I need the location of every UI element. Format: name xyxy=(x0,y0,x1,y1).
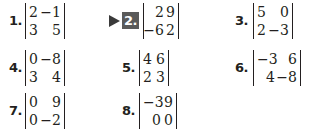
matrix-cell: −2 xyxy=(40,111,61,129)
matrix-cell: 4 xyxy=(143,50,152,68)
problem-number: 7. xyxy=(9,103,22,118)
pointer-arrow-icon xyxy=(109,15,120,27)
problem-number: 1. xyxy=(9,13,22,28)
problem-6: 6. −3 6 4 −8 xyxy=(200,50,313,88)
matrix-cell: 3 xyxy=(29,21,38,39)
matrix-row: 2 3 xyxy=(140,68,168,86)
matrix-cell: −3 xyxy=(268,21,289,39)
matrix-cell: 5 xyxy=(257,3,266,21)
matrix-cell: 9 xyxy=(166,3,175,21)
determinant: 2 −1 3 5 xyxy=(25,3,65,39)
matrix-cell: 0 xyxy=(152,111,161,129)
determinant: −3 6 4 −8 xyxy=(253,50,301,86)
matrix-row: −3 9 xyxy=(140,93,176,111)
matrix-cell: 4 xyxy=(266,68,275,86)
matrix-row: 4 6 xyxy=(140,50,168,68)
problem-2: 2. 2 9 −6 2 xyxy=(100,3,200,41)
matrix-cell: 9 xyxy=(52,93,61,111)
matrix-row: 4 −8 xyxy=(254,68,300,86)
matrix-cell: −8 xyxy=(276,68,297,86)
matrix-cell: 3 xyxy=(29,68,38,86)
determinant: −3 9 0 0 xyxy=(139,93,177,129)
matrix-row: −6 2 xyxy=(144,21,178,39)
matrix-cell: 2 xyxy=(257,21,266,39)
determinant: 5 0 2 −3 xyxy=(253,3,293,39)
matrix-row: −3 6 xyxy=(254,50,300,68)
determinant: 0 9 0 −2 xyxy=(25,93,65,129)
matrix-cell: −6 xyxy=(143,21,164,39)
matrix-row: 2 −3 xyxy=(254,21,292,39)
problem-number: 4. xyxy=(9,60,22,75)
matrix-cell: 2 xyxy=(166,21,175,39)
matrix-row: 5 0 xyxy=(254,3,292,21)
matrix-cell: 6 xyxy=(156,50,165,68)
matrix-row: 0 0 xyxy=(140,111,176,129)
matrix-cell: 2 xyxy=(143,68,152,86)
matrix-cell: 0 xyxy=(29,50,38,68)
matrix-row: 0 −8 xyxy=(26,50,64,68)
determinant: 4 6 2 3 xyxy=(139,50,169,86)
matrix-cell: −8 xyxy=(40,50,61,68)
problem-number: 5. xyxy=(122,60,135,75)
matrix-cell: 0 xyxy=(29,111,38,129)
problem-8: 8. −3 9 0 0 xyxy=(100,93,200,131)
problem-number-highlighted: 2. xyxy=(122,12,139,29)
matrix-cell: 0 xyxy=(280,3,289,21)
problem-number: 6. xyxy=(235,60,248,75)
problem-7: 7. 0 9 0 −2 xyxy=(0,93,100,131)
matrix-cell: 0 xyxy=(29,93,38,111)
problem-3: 3. 5 0 2 −3 xyxy=(200,3,313,41)
matrix-cell: −1 xyxy=(40,3,61,21)
matrix-row: 2 9 xyxy=(144,3,178,21)
matrix-cell: 2 xyxy=(29,3,38,21)
matrix-row: 2 −1 xyxy=(26,3,64,21)
determinant: 2 9 −6 2 xyxy=(143,3,179,39)
problem-1: 1. 2 −1 3 5 xyxy=(0,3,100,41)
matrix-cell: 3 xyxy=(156,68,165,86)
matrix-row: 3 4 xyxy=(26,68,64,86)
matrix-row: 3 5 xyxy=(26,21,64,39)
matrix-cell: −3 xyxy=(257,50,278,68)
problem-number: 8. xyxy=(122,103,135,118)
matrix-cell: 9 xyxy=(164,93,173,111)
matrix-cell: 6 xyxy=(288,50,297,68)
matrix-row: 0 −2 xyxy=(26,111,64,129)
problem-5: 5. 4 6 2 3 xyxy=(100,50,200,88)
determinant: 0 −8 3 4 xyxy=(25,50,65,86)
matrix-cell: 2 xyxy=(155,3,164,21)
matrix-cell: 5 xyxy=(52,21,61,39)
matrix-row: 0 9 xyxy=(26,93,64,111)
matrix-cell: 4 xyxy=(52,68,61,86)
matrix-cell: 0 xyxy=(164,111,173,129)
problem-4: 4. 0 −8 3 4 xyxy=(0,50,100,88)
matrix-cell: −3 xyxy=(143,93,164,111)
problem-number: 3. xyxy=(235,13,248,28)
